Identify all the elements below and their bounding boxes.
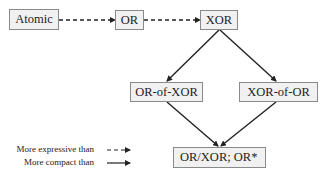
diagram: Atomic OR XOR OR-of-XOR XOR-of-OR OR/XOR… (0, 0, 320, 179)
node-xor-of-or: XOR-of-OR (239, 82, 318, 102)
legend-dashed-label: More expressive than (17, 144, 94, 154)
node-xor: XOR (200, 10, 238, 30)
node-atomic: Atomic (9, 9, 59, 30)
node-or-xor-or-star: OR/XOR; OR* (173, 147, 266, 168)
node-or: OR (115, 10, 144, 30)
edge-xor-to-xor-of-or (220, 30, 276, 81)
node-or-of-xor: OR-of-XOR (130, 82, 203, 102)
edge-or-of-xor-to-result (167, 102, 218, 146)
edge-xor-of-or-to-result (221, 102, 276, 146)
legend-solid-label: More compact than (24, 157, 94, 167)
edge-xor-to-or-of-xor (167, 30, 219, 81)
